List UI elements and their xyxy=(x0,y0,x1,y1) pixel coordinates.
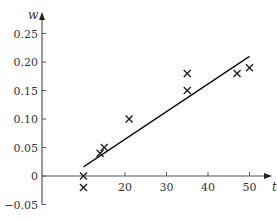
x-marker-icon xyxy=(234,70,241,77)
x-tick-label: 50 xyxy=(243,181,257,194)
x-tick-label: 30 xyxy=(160,181,174,194)
y-axis-label: w xyxy=(28,8,39,22)
y-tick-label: 0.15 xyxy=(14,85,39,98)
x-axis-label: t xyxy=(272,180,277,194)
data-markers xyxy=(80,64,253,191)
x-marker-icon xyxy=(80,184,87,191)
tick-marks xyxy=(42,34,250,205)
x-marker-icon xyxy=(126,116,133,123)
y-tick-label: 0 xyxy=(31,170,38,183)
scatter-chart: 0.250.200.150.100.050−0.0520304050 t w xyxy=(0,0,277,220)
x-marker-icon xyxy=(184,70,191,77)
y-axis-arrow-icon xyxy=(39,12,45,20)
x-marker-icon xyxy=(101,144,108,151)
y-tick-label: 0.25 xyxy=(14,28,39,41)
x-marker-icon xyxy=(184,87,191,94)
x-axis-arrow-icon xyxy=(264,173,272,179)
y-tick-label: 0.10 xyxy=(14,113,39,126)
y-tick-label: 0.05 xyxy=(14,142,39,155)
axes xyxy=(39,12,272,205)
regression-line xyxy=(84,56,250,167)
y-tick-label: 0.20 xyxy=(14,56,39,69)
x-marker-icon xyxy=(246,64,253,71)
x-tick-label: 40 xyxy=(201,181,215,194)
y-tick-label: −0.05 xyxy=(4,199,38,212)
fitted-line xyxy=(84,56,250,167)
x-tick-label: 20 xyxy=(118,181,132,194)
